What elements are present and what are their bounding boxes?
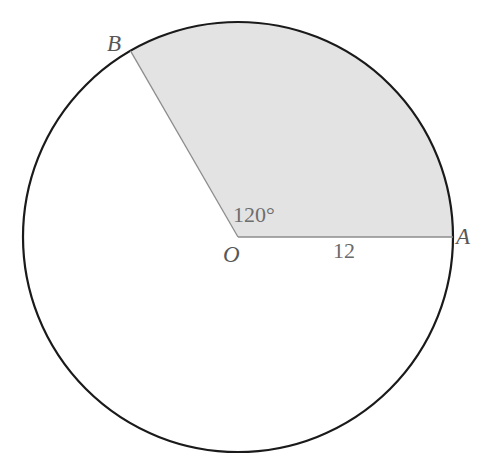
- circle-sector-diagram: B O A 12 120°: [0, 0, 482, 467]
- diagram-canvas: [0, 0, 482, 467]
- radius-measure-label: 12: [333, 240, 355, 262]
- point-label-o: O: [223, 243, 240, 266]
- shaded-sector-region: [131, 22, 454, 237]
- point-label-a: A: [456, 225, 470, 248]
- central-angle-label: 120°: [233, 204, 275, 226]
- point-label-b: B: [107, 32, 121, 55]
